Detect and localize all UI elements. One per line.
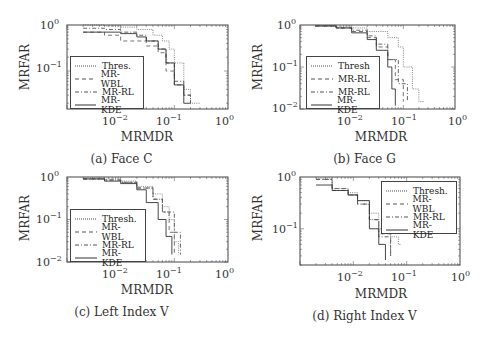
x-tick-1e-1: 10−1 — [156, 113, 182, 128]
legend: Thresh. MR-WBL MR-RL MR-KDE — [70, 209, 146, 262]
panel-face-g: MRFAR 100 10−1 10−2 10−2 10−1 100 MRMDR … — [243, 0, 486, 171]
x-tick-1e-2: 10−2 — [337, 269, 363, 284]
x-axis-label: MRMDR — [341, 287, 421, 301]
y-tick-1e-1: 10−1 — [272, 59, 298, 74]
y-tick-1e0: 100 — [40, 169, 59, 184]
x-tick-1e0: 100 — [451, 269, 470, 284]
legend-entry-mr-kde: MR-KDE — [386, 223, 452, 236]
caption-right-index-v: (d) Right Index V — [243, 309, 486, 323]
caption-face-c: (a) Face C — [0, 152, 243, 166]
caption-face-g: (b) Face G — [243, 152, 486, 166]
legend-entry-mr-wbl: MR-WBL — [386, 197, 452, 210]
y-tick-1e-1: 10−1 — [36, 60, 62, 75]
legend-entry-mr-kde: MR-KDE — [75, 251, 141, 264]
legend-entry-mr-wbl: MR-WBL — [75, 225, 141, 238]
y-tick-1e0: 100 — [277, 17, 296, 32]
x-tick-1e-2: 10−2 — [337, 113, 363, 128]
legend-entry-thresh: Thresh — [311, 59, 375, 72]
x-tick-1e-1: 10−1 — [391, 113, 417, 128]
y-axis-label: MRFAR — [251, 42, 265, 92]
legend: Thres. MR-WBL MR-RL MR-KDE — [70, 56, 144, 109]
x-tick-1e-2: 10−2 — [102, 113, 128, 128]
legend-entry-mr-rl-dashed: MR-RL — [311, 72, 375, 85]
x-tick-1e0: 100 — [215, 266, 234, 281]
legend-entry-mr-kde: MR-KDE — [75, 98, 139, 111]
x-axis-label: MRMDR — [341, 130, 421, 144]
y-tick-1e0: 100 — [40, 17, 59, 32]
x-tick-1e-1: 10−1 — [156, 266, 182, 281]
panel-face-c: MRFAR 100 10−1 10−2 10−1 100 MRMDR (a) F… — [0, 0, 243, 171]
x-tick-1e-2: 10−2 — [102, 266, 128, 281]
y-tick-1e-1: 10−1 — [272, 221, 298, 236]
legend: Thresh MR-RL MR-RL MR-KDE — [306, 56, 380, 109]
legend-entry-mr-kde: MR-KDE — [311, 98, 375, 111]
y-axis-label: MRFAR — [251, 193, 265, 243]
panel-right-index-v: MRFAR 100 10−1 10−2 10−1 100 MRMDR (d) R… — [243, 171, 486, 342]
y-tick-1e-2: 10−2 — [272, 100, 298, 115]
x-tick-1e0: 100 — [215, 113, 234, 128]
panel-left-index-v: MRFAR 100 10−1 10−2 10−2 10−1 100 MRMDR … — [0, 171, 243, 342]
legend-entry-mr-wbl: MR-WBL — [75, 72, 139, 85]
y-tick-1e-1: 10−1 — [36, 211, 62, 226]
y-tick-1e0: 100 — [277, 169, 296, 184]
caption-left-index-v: (c) Left Index V — [0, 305, 243, 319]
y-axis-label: MRFAR — [18, 193, 32, 243]
x-tick-1e0: 100 — [448, 113, 467, 128]
legend: Thresh. MR-WBL MR-RL MR-KDE — [381, 181, 457, 234]
x-axis-label: MRMDR — [107, 130, 187, 144]
y-axis-label: MRFAR — [18, 42, 32, 92]
x-tick-1e-1: 10−1 — [391, 269, 417, 284]
x-axis-label: MRMDR — [107, 283, 187, 297]
y-tick-1e-2: 10−2 — [36, 254, 62, 269]
